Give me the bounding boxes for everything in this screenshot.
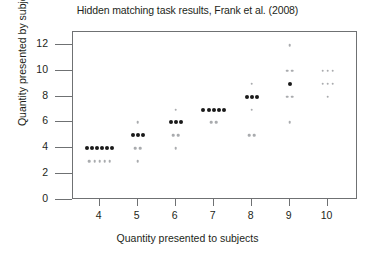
data-point	[222, 108, 226, 112]
data-point	[139, 147, 142, 150]
data-point	[136, 160, 139, 163]
data-point	[95, 146, 99, 150]
data-point	[136, 133, 140, 137]
data-point	[136, 121, 139, 124]
data-point	[110, 146, 114, 150]
data-point	[141, 133, 145, 137]
data-point	[93, 160, 96, 163]
y-axis-tick-label: 6	[8, 114, 48, 126]
chart-screenshot: Hidden matching task results, Frank et a…	[0, 0, 375, 267]
y-axis-tick-label: 8	[8, 89, 48, 101]
data-point	[207, 108, 211, 112]
data-point	[98, 160, 101, 163]
data-point	[245, 95, 249, 99]
x-axis-tick-label: 5	[117, 209, 157, 221]
data-point	[217, 108, 221, 112]
data-point	[88, 160, 91, 163]
data-point	[326, 95, 329, 98]
data-point	[291, 95, 294, 98]
y-axis-tick-label: 10	[8, 63, 48, 75]
data-point	[253, 134, 256, 137]
x-axis-tick-label: 10	[307, 209, 347, 221]
data-point	[288, 82, 292, 86]
x-axis-tick	[289, 199, 290, 206]
data-point	[210, 121, 213, 124]
x-axis-tick-label: 4	[79, 209, 119, 221]
data-point	[250, 108, 253, 111]
data-point	[255, 95, 259, 99]
x-axis-tick	[99, 199, 100, 206]
x-axis-tick	[251, 199, 252, 206]
x-axis-tick	[175, 199, 176, 206]
y-axis-tick-label: 2	[8, 166, 48, 178]
data-point	[331, 69, 334, 72]
y-axis-tick	[55, 96, 72, 97]
data-point	[250, 82, 253, 85]
chart-title: Hidden matching task results, Frank et a…	[0, 4, 375, 16]
data-point	[174, 120, 178, 124]
data-point	[291, 69, 294, 72]
data-point	[286, 95, 289, 98]
data-point	[212, 108, 216, 112]
data-point	[286, 69, 289, 72]
y-axis-tick	[55, 44, 72, 45]
x-axis-tick-label: 8	[231, 209, 271, 221]
data-point	[131, 133, 135, 137]
x-axis-tick-label: 6	[155, 209, 195, 221]
x-axis-tick-label: 7	[193, 209, 233, 221]
data-point	[321, 82, 324, 85]
data-point	[109, 160, 112, 163]
plot-frame	[72, 31, 357, 199]
data-point	[321, 69, 324, 72]
y-axis-tick-label: 0	[8, 192, 48, 204]
x-axis-tick-label: 9	[269, 209, 309, 221]
x-axis-tick	[137, 199, 138, 206]
data-point	[179, 120, 183, 124]
x-axis-tick	[327, 199, 328, 206]
data-point	[85, 146, 89, 150]
data-point	[326, 69, 329, 72]
data-point	[103, 160, 106, 163]
data-point	[174, 147, 177, 150]
y-axis-tick	[55, 70, 72, 71]
y-axis-tick	[55, 173, 72, 174]
data-point	[215, 121, 218, 124]
y-axis-label: Quantity presented by subjects	[16, 0, 28, 152]
x-axis-label: Quantity presented to subjects	[0, 232, 375, 244]
y-axis-tick	[55, 147, 72, 148]
x-axis-tick	[213, 199, 214, 206]
plot-area	[73, 32, 356, 198]
data-point	[172, 134, 175, 137]
data-point	[177, 134, 180, 137]
data-point	[134, 147, 137, 150]
data-point	[90, 146, 94, 150]
data-point	[288, 121, 291, 124]
data-point	[288, 44, 291, 47]
y-axis-tick	[55, 199, 72, 200]
y-axis-tick	[55, 121, 72, 122]
data-point	[250, 95, 254, 99]
data-point	[174, 108, 177, 111]
y-axis-tick-label: 12	[8, 37, 48, 49]
data-point	[100, 146, 104, 150]
data-point	[201, 108, 205, 112]
data-point	[169, 120, 173, 124]
data-point	[331, 82, 334, 85]
data-point	[105, 146, 109, 150]
y-axis-tick-label: 4	[8, 140, 48, 152]
data-point	[248, 134, 251, 137]
data-point	[326, 82, 329, 85]
